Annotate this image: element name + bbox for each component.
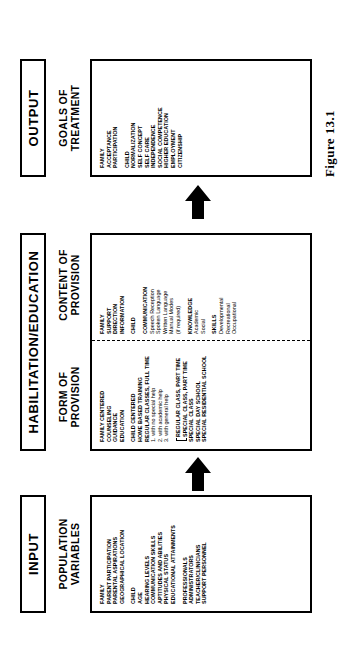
list-item: (if required) bbox=[175, 238, 182, 334]
list-item: Spoken Language bbox=[155, 238, 162, 334]
group-heading: CHILD CENTERED bbox=[130, 344, 137, 442]
subheading-line: FORM OF bbox=[57, 372, 69, 423]
box-population-variables: FAMILYPARENT PARTICIPATIONPARENTAL ASPIR… bbox=[90, 495, 312, 613]
list-item: CITIZENSHIP bbox=[177, 64, 184, 168]
list-item: REGULAR CLASS, PART TIME bbox=[175, 344, 182, 437]
list-item: HOME BASED TRAINING bbox=[137, 344, 144, 442]
group-items: DevelopmentalRecreationalOccupational bbox=[218, 238, 238, 334]
list-form-of-provision: FAMILY CENTEREDCOUNSELINGGUIDANCEEDUCATI… bbox=[99, 344, 213, 442]
list-item: SELF CONCEPT bbox=[137, 64, 144, 168]
stage-bar-output-label: OUTPUT bbox=[26, 89, 41, 146]
list-item: DIRECTION bbox=[112, 238, 119, 334]
group-heading: COMMUNICATION bbox=[142, 238, 149, 334]
subheading-line: POPULATION bbox=[57, 518, 69, 589]
list-item: COMMUNICATION SKILLS bbox=[150, 500, 157, 604]
list-item: PHYSICAL STATUS bbox=[163, 500, 170, 604]
group-items: AGEHEARING LEVELSCOMMUNICATION SKILLSAPT… bbox=[137, 500, 177, 604]
list-item: Written Language bbox=[162, 238, 169, 334]
group-items: ACCEPTANCEPARTICIPATION bbox=[106, 64, 119, 168]
list-content-of-provision: FAMILYSUPPORTDIRECTIONINFORMATIONCHILDCO… bbox=[99, 238, 243, 334]
group-heading: KNOWLEDGE bbox=[187, 238, 194, 334]
stage-bar-output: OUTPUT bbox=[20, 59, 46, 177]
list-population-variables: FAMILYPARENT PARTICIPATIONPARENTAL ASPIR… bbox=[99, 500, 213, 604]
stage-bar-input-label: INPUT bbox=[26, 533, 41, 575]
list-item: Recreational bbox=[225, 238, 232, 334]
subheading-line: PROVISION bbox=[69, 366, 81, 427]
list-item: SUPPORT PERSONNEL bbox=[201, 500, 208, 604]
subheading-line: TREATMENT bbox=[69, 85, 81, 152]
list-item: Developmental bbox=[218, 238, 225, 334]
trailing-options: SPECIAL CLASSSPECIAL DAY SCHOOLSPECIAL R… bbox=[188, 344, 208, 442]
list-item: ADMINISTRATORS bbox=[188, 500, 195, 604]
list-item: SPECIAL RESIDENTIAL SCHOOL bbox=[201, 344, 208, 442]
list-item: PARTICIPATION bbox=[112, 64, 119, 168]
box-goals-of-treatment: FAMILYACCEPTANCEPARTICIPATIONCHILDNORMAL… bbox=[90, 59, 312, 177]
list-item: HIGHER EDUCATION bbox=[163, 64, 170, 168]
list-item: APTITUDES AND ABILITIES bbox=[157, 500, 164, 604]
list-item: 3. with general help bbox=[163, 344, 170, 442]
group-heading: FAMILY CENTERED bbox=[99, 344, 106, 442]
list-item: Occupational bbox=[231, 238, 238, 334]
group-heading: FAMILY bbox=[99, 238, 106, 334]
group-heading: FAMILY bbox=[99, 64, 106, 168]
list-item: 2. with academic help bbox=[157, 344, 164, 442]
group-items: ADMINISTRATORSTEACHER/CLINICIANSSUPPORT … bbox=[188, 500, 208, 604]
list-item: Academic bbox=[193, 238, 200, 334]
subheading-form-of-provision: FORM OFPROVISION bbox=[58, 343, 81, 451]
list-item: INDEPENDENCE bbox=[150, 64, 157, 168]
group-items: HOME BASED TRAININGREGULAR CLASSES, FULL… bbox=[137, 344, 170, 442]
arrow-input-to-habilitation-icon bbox=[185, 457, 211, 491]
list-item: HEARING LEVELS bbox=[144, 500, 151, 604]
list-item: SUPPORT bbox=[106, 238, 113, 334]
list-item: EDUCATIONAL ATTAINMENTS bbox=[170, 500, 177, 604]
list-item: GUIDANCE bbox=[112, 344, 119, 442]
subheading-line: VARIABLES bbox=[69, 523, 81, 586]
group-items: AcademicSocial bbox=[193, 238, 206, 334]
subheading-content-of-provision: CONTENT OFPROVISION bbox=[58, 233, 81, 337]
list-item: TEACHER/CLINICIANS bbox=[195, 500, 202, 604]
group-items: SUPPORTDIRECTIONINFORMATION bbox=[106, 238, 126, 334]
list-item: PARENTAL ASPIRATIONS bbox=[112, 500, 119, 604]
list-item: NORMALIZATION bbox=[130, 64, 137, 168]
group-heading: FAMILY bbox=[99, 500, 106, 604]
box-habilitation-education: FAMILY CENTEREDCOUNSELINGGUIDANCEEDUCATI… bbox=[90, 233, 312, 451]
list-item: REGULAR CLASSES, FULL TIME bbox=[144, 344, 151, 442]
list-item: INFORMATION bbox=[119, 238, 126, 334]
list-item: Social bbox=[200, 238, 207, 334]
list-item: SPECIAL CLASS bbox=[188, 344, 195, 442]
list-item: Manual Modes bbox=[168, 238, 175, 334]
stage-bar-input: INPUT bbox=[20, 495, 46, 613]
middle-box-divider bbox=[92, 340, 310, 341]
list-item: EDUCATION bbox=[119, 344, 126, 442]
list-item: GEOGRAPHICAL LOCATION bbox=[119, 500, 126, 604]
list-item: SELF CARE bbox=[144, 64, 151, 168]
list-item: COUNSELING bbox=[106, 344, 113, 442]
list-item: 1. with no special help bbox=[150, 344, 157, 442]
list-item: SOCIAL COMPETENCE bbox=[157, 64, 164, 168]
subheading-line: CONTENT OF bbox=[57, 249, 69, 320]
figure-caption: Figure 13.1 bbox=[322, 17, 338, 177]
subheading-line: GOALS OF bbox=[57, 89, 69, 146]
stage-bar-habilitation: HABILITATION/EDUCATION bbox=[20, 233, 46, 451]
bracketed-options: REGULAR CLASS, PART TIMESPECIAL CLASS, P… bbox=[175, 344, 188, 442]
list-item: SPECIAL CLASS, PART TIME bbox=[182, 344, 189, 437]
group-heading: CHILD bbox=[130, 500, 137, 604]
group-heading: PROFESSIONALS bbox=[182, 500, 189, 604]
list-item: SPECIAL DAY SCHOOL bbox=[195, 344, 202, 442]
list-item: AGE bbox=[137, 500, 144, 604]
arrow-habilitation-to-output-icon bbox=[185, 185, 211, 219]
list-item: Speech Reception bbox=[149, 238, 156, 334]
group-items: PARENT PARTICIPATIONPARENTAL ASPIRATIONS… bbox=[106, 500, 126, 604]
group-items: COUNSELINGGUIDANCEEDUCATION bbox=[106, 344, 126, 442]
list-item: EMPLOYMENT bbox=[170, 64, 177, 168]
group-items: NORMALIZATIONSELF CONCEPTSELF CAREINDEPE… bbox=[130, 64, 183, 168]
subheading-goals-of-treatment: GOALS OFTREATMENT bbox=[58, 59, 81, 177]
list-item: PARENT PARTICIPATION bbox=[106, 500, 113, 604]
group-heading: SKILLS bbox=[211, 238, 218, 334]
list-item: ACCEPTANCE bbox=[106, 64, 113, 168]
group-heading: CHILD bbox=[124, 64, 131, 168]
group-heading: CHILD bbox=[130, 238, 137, 334]
group-items: Speech ReceptionSpoken LanguageWritten L… bbox=[149, 238, 182, 334]
